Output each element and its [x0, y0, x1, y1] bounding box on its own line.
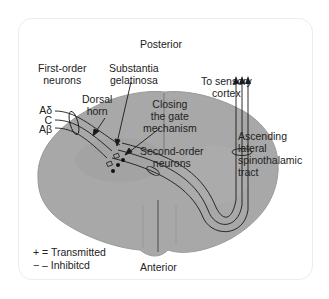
- anterior-label: Anterior: [140, 261, 177, 273]
- fiber-label-a-beta: Aβ: [34, 124, 52, 135]
- closing-gate-label: Closing the gate mechanism: [143, 98, 197, 134]
- second-order-neurons-label: Second-order neurons: [140, 145, 204, 169]
- to-sensory-cortex-label: To sensory cortex: [201, 75, 252, 99]
- legend: + = Transmitted − – Inhibitcd: [33, 246, 106, 272]
- dorsal-horn-label: Dorsal horn: [82, 93, 112, 117]
- substantia-gelatinosa-label: Substantia gelatinosa: [109, 62, 159, 86]
- first-order-neurons-label: First-order neurons: [38, 62, 86, 86]
- legend-item-transmitted: + = Transmitted: [33, 246, 106, 259]
- legend-item-inhibited: − – Inhibitcd: [33, 259, 106, 272]
- ascending-tract-label: Ascending lateral spinothalamic tract: [238, 130, 302, 178]
- posterior-label: Posterior: [140, 38, 182, 50]
